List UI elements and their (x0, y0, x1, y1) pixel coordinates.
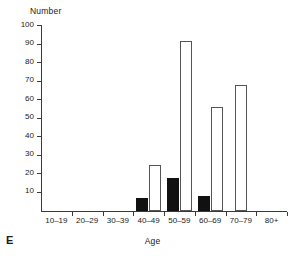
plot-area: 102030405060708090100 10–1920–2930–3940–… (41, 26, 287, 212)
x-axis-tick (287, 212, 288, 216)
bar-group (226, 26, 257, 211)
y-axis-tick-label: 60 (25, 94, 34, 104)
bar-group (195, 26, 226, 211)
bar-group (133, 26, 164, 211)
x-axis-category-label: 30–39 (103, 216, 134, 226)
y-axis-tick-label: 50 (25, 112, 34, 122)
bar-group (72, 26, 103, 211)
y-axis-tick-label: 100 (21, 20, 34, 30)
x-axis-title: Age (0, 236, 305, 246)
x-axis-category-label: 40–49 (133, 216, 164, 226)
y-axis-tick-label: 90 (25, 38, 34, 48)
bar-group (103, 26, 134, 211)
bar-open (235, 85, 247, 211)
x-axis-category-label: 10–19 (41, 216, 72, 226)
bar-group (41, 26, 72, 211)
panel-letter: E (6, 234, 13, 246)
bar-filled (198, 196, 210, 211)
bar-group (164, 26, 195, 211)
x-axis-category-label: 80+ (256, 216, 287, 226)
x-axis-category-label: 60–69 (195, 216, 226, 226)
y-axis-tick-label: 30 (25, 149, 34, 159)
y-axis-tick-label: 80 (25, 57, 34, 67)
x-axis-category-label: 70–79 (226, 216, 257, 226)
y-axis-tick-label: 20 (25, 168, 34, 178)
y-axis-tick-label: 70 (25, 75, 34, 85)
bar-open (180, 41, 192, 211)
y-axis-title: Number (30, 6, 61, 16)
bar-filled (167, 178, 179, 211)
y-axis-tick-label: 10 (25, 186, 34, 196)
bar-open (211, 107, 223, 211)
y-axis-tick-label: 40 (25, 131, 34, 141)
x-axis-category-label: 50–59 (164, 216, 195, 226)
bar-filled (136, 198, 148, 211)
bar-open (149, 165, 161, 211)
bar-group (256, 26, 287, 211)
x-axis-category-label: 20–29 (72, 216, 103, 226)
figure-panel-e: Number 102030405060708090100 10–1920–293… (0, 0, 305, 256)
